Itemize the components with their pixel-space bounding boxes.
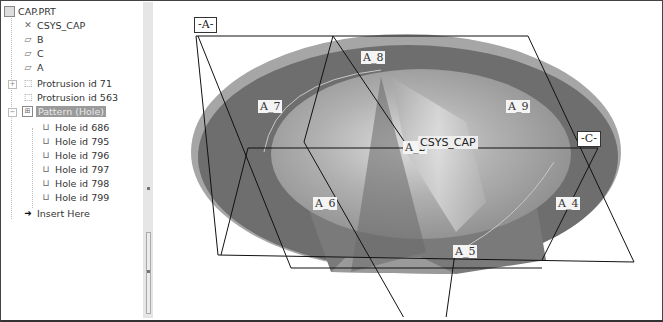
hole-icon: ⊔ [40,163,52,175]
scrollbar-thumb[interactable] [146,232,151,314]
tree-item-hole-797[interactable]: ⊔ Hole id 797 [40,162,109,176]
datum-tag-a[interactable]: -A- [194,17,217,33]
insert-arrow-icon: ➜ [22,207,34,219]
part-icon [4,6,15,17]
tree-item-hole-798[interactable]: ⊔ Hole id 798 [40,176,109,190]
tree-guide-line [11,16,12,219]
tree-item-pattern-hole[interactable]: ⊞ Pattern (Hole) [22,104,106,118]
sash-grip-dot [147,270,150,273]
hole-icon: ⊔ [40,177,52,189]
axis-label-a9[interactable]: A_9 [506,100,530,113]
tree-item-hole-796[interactable]: ⊔ Hole id 796 [40,148,109,162]
tree-item-csys[interactable]: ✕ CSYS_CAP [22,18,85,32]
csys-label[interactable]: CSYS_CAP [418,136,478,149]
tree-item-protrusion-71[interactable]: ⬚ Protrusion id 71 [22,76,112,90]
csys-icon: ✕ [22,19,34,31]
axis-label-a6[interactable]: A_6 [313,197,337,210]
tree-item-protrusion-563[interactable]: ⬚ Protrusion id 563 [22,90,118,104]
datum-plane-icon: ▱ [22,33,34,45]
datum-plane-icon: ▱ [22,47,34,59]
panel-sash[interactable] [143,2,153,318]
tree-item-hole-799[interactable]: ⊔ Hole id 799 [40,190,109,204]
tree-item-cap-prt[interactable]: CAP.PRT [4,4,56,18]
hole-icon: ⊔ [40,135,52,147]
protrusion-icon: ⬚ [22,91,34,103]
graphics-viewport[interactable]: -A- -C- A_8 A_7 A_9 A_2 A_6 A_4 A_5 CSYS… [156,2,659,317]
axis-label-a5[interactable]: A_5 [453,245,477,258]
tree-item-hole-686[interactable]: ⊔ Hole id 686 [40,120,109,134]
tree-item-insert-here[interactable]: ➜ Insert Here [22,206,90,220]
axis-label-a8[interactable]: A_8 [361,51,385,64]
datum-plane-icon: ▱ [22,61,34,73]
hole-icon: ⊔ [40,121,52,133]
tree-guide-line [32,128,33,208]
expand-toggle[interactable]: + [8,80,17,89]
pattern-icon: ⊞ [22,106,33,117]
tree-item-datum-a[interactable]: ▱ A [22,60,44,74]
model-render [156,2,659,317]
datum-tag-c[interactable]: -C- [577,131,601,147]
hole-icon: ⊔ [40,191,52,203]
tree-item-datum-c[interactable]: ▱ C [22,46,44,60]
collapse-toggle[interactable]: − [8,108,17,117]
tree-item-hole-795[interactable]: ⊔ Hole id 795 [40,134,109,148]
axis-label-a7[interactable]: A_7 [258,100,282,113]
tree-item-datum-b[interactable]: ▱ B [22,32,44,46]
sash-grip-dot [147,187,150,190]
model-tree: CAP.PRT ✕ CSYS_CAP ▱ B ▱ C ▱ A + ⬚ Protr… [2,2,142,316]
protrusion-icon: ⬚ [22,77,34,89]
hole-icon: ⊔ [40,149,52,161]
axis-label-a4[interactable]: A_4 [556,197,580,210]
